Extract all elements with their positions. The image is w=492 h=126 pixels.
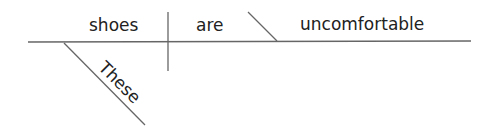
predicate-adjective-word: uncomfortable — [300, 16, 424, 33]
baseline — [28, 41, 471, 42]
predicate-slant — [248, 12, 277, 41]
verb-word: are — [196, 17, 224, 34]
subject-word: shoes — [89, 17, 138, 34]
